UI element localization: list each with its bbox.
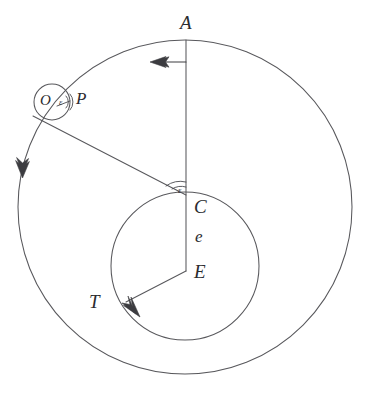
angle-arc-at-C: [166, 181, 186, 186]
point-label-P: P: [76, 90, 86, 107]
geometry-diagram-svg: [0, 0, 368, 393]
segment-E-to-T: [126, 271, 186, 302]
inner-circle: [111, 192, 259, 340]
angle-label-epsilon-at-C: ε: [178, 186, 181, 195]
point-label-A: A: [180, 13, 192, 32]
segment-O-P-to-C: [33, 116, 186, 195]
point-label-T: T: [89, 292, 100, 311]
outer-circle: [18, 40, 352, 374]
segment-label-e: e: [195, 228, 203, 245]
point-label-C: C: [194, 197, 207, 216]
point-label-O: O: [40, 93, 51, 108]
diagram-canvas: A C e E T O P ε ε: [0, 0, 368, 393]
angle-label-epsilon-at-P: ε: [59, 98, 62, 107]
point-label-E: E: [194, 262, 206, 281]
